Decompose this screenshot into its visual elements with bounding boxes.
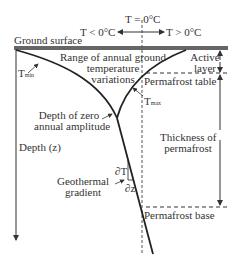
zero-degree-label: T = 0°C <box>125 14 160 25</box>
tmax-label: Tmax <box>144 96 161 109</box>
zero-amplitude-label-2: annual amplitude <box>34 121 104 132</box>
geothermal-label-2: gradient <box>56 187 110 198</box>
dT-label: ∂T <box>115 166 127 177</box>
dz-label: ∂z <box>125 183 135 194</box>
depth-label: Depth (z) <box>19 142 61 153</box>
ground-surface-bar <box>14 46 228 50</box>
ground-surface-label: Ground surface <box>14 35 82 46</box>
above-zero-label: T > 0°C <box>166 27 201 38</box>
permafrost-table-label: Permafrost table <box>144 76 216 87</box>
tmin-label: Tmin <box>18 68 34 81</box>
thickness-label-2: permafrost <box>160 143 216 154</box>
permafrost-base-label: Permafrost base <box>144 210 215 221</box>
active-layer-label-2: layer <box>185 63 225 74</box>
below-zero-label: T < 0°C <box>80 27 115 38</box>
